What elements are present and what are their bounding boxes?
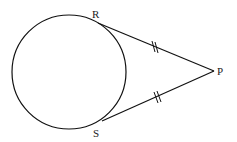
label-s: S	[93, 127, 99, 139]
label-r: R	[92, 8, 100, 20]
tangent-segment-sp	[102, 71, 214, 121]
tangent-diagram: R S P	[0, 0, 237, 142]
circle	[12, 15, 126, 129]
diagram-canvas: R S P	[0, 0, 237, 142]
label-p: P	[217, 65, 223, 77]
